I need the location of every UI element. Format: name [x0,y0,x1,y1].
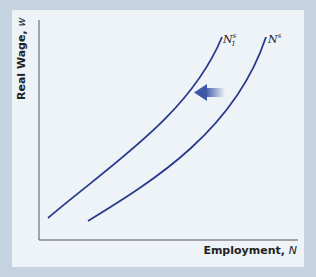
label-n1s: Ns1 [223,32,241,46]
x-axis-label: Employment, N [203,244,297,257]
label-ns: Ns [268,32,281,46]
shift-left-arrow-icon [194,84,225,101]
y-axis-label: Real Wage, w [15,18,28,100]
curve-ns [88,37,266,221]
